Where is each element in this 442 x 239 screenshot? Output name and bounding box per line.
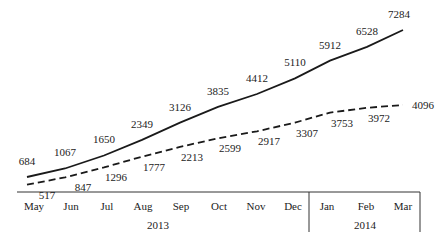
data-label-dashed: 3753 [331, 117, 353, 129]
x-tick-label: Aug [134, 200, 153, 212]
data-label-dashed: 4096 [412, 99, 434, 111]
x-tick-label: Feb [358, 200, 375, 212]
data-label-dashed: 517 [39, 189, 56, 201]
x-tick-label: Oct [211, 200, 227, 212]
x-tick-label: Nov [247, 200, 266, 212]
data-label-dashed: 3972 [368, 112, 390, 124]
data-label-dashed: 2213 [181, 151, 203, 163]
x-tick-label: Dec [284, 200, 302, 212]
year-group-label: 2013 [147, 219, 169, 231]
x-tick-label: Sep [173, 200, 190, 212]
data-label-solid: 1650 [93, 133, 115, 145]
data-label-solid: 1067 [54, 146, 76, 158]
data-label-solid: 5912 [319, 39, 341, 51]
x-tick-label: May [24, 200, 44, 212]
series-solid-line [27, 30, 403, 177]
data-label-dashed: 2599 [219, 142, 241, 154]
data-label-solid: 5110 [284, 56, 306, 68]
data-label-dashed: 2917 [258, 135, 280, 147]
data-label-dashed: 1296 [105, 171, 127, 183]
x-tick-label: Jun [63, 200, 78, 212]
x-tick-label: Mar [394, 200, 412, 212]
data-label-solid: 3126 [169, 101, 191, 113]
data-label-solid: 6528 [356, 25, 378, 37]
data-label-solid: 7284 [388, 8, 410, 20]
data-label-dashed: 1777 [143, 161, 165, 173]
x-tick-label: Jul [101, 200, 114, 212]
data-label-solid: 3835 [207, 85, 229, 97]
data-label-dashed: 3307 [296, 127, 318, 139]
data-label-solid: 684 [19, 155, 36, 167]
x-tick-label: Jan [320, 200, 335, 212]
data-label-solid: 4412 [246, 72, 268, 84]
data-label-dashed: 847 [75, 181, 92, 193]
year-group-label: 2014 [354, 219, 376, 231]
data-label-solid: 2349 [131, 118, 153, 130]
